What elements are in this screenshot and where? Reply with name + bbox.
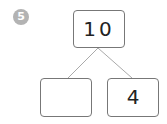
problem-number-badge: 5 (13, 9, 29, 25)
part-box-left-empty[interactable] (40, 78, 92, 117)
whole-box: 10 (73, 10, 125, 48)
part-box-right: 4 (107, 78, 159, 117)
